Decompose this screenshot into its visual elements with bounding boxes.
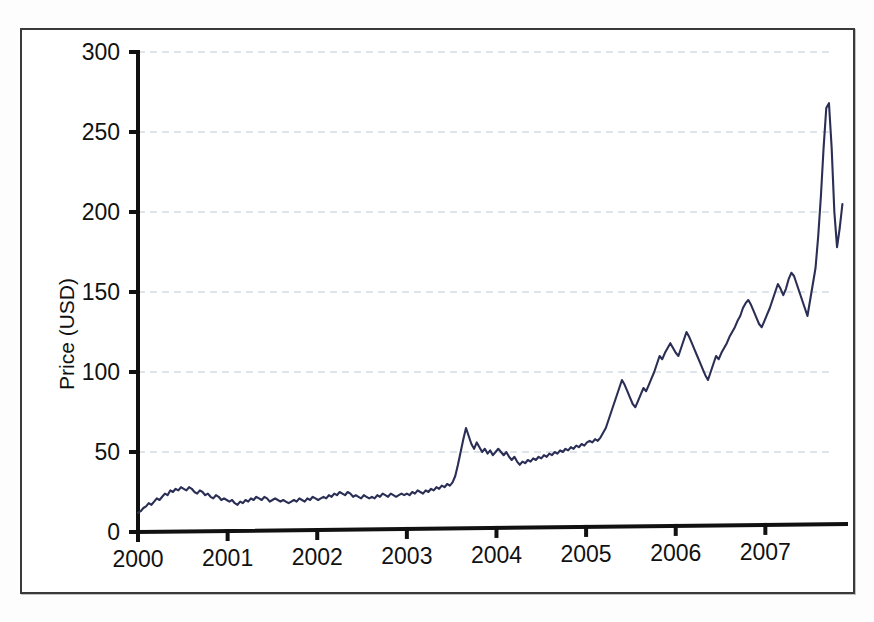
x-tick-label: 2005 xyxy=(561,541,612,567)
price-series-line xyxy=(138,103,842,513)
y-tick-label: 100 xyxy=(82,359,120,385)
y-tick-label: 0 xyxy=(107,519,120,545)
y-axis-ticks: 050100150200250300 xyxy=(82,39,140,545)
y-tick-label: 200 xyxy=(82,199,120,225)
x-tick-label: 2001 xyxy=(202,545,253,571)
y-tick-label: 250 xyxy=(82,119,120,145)
x-tick-label: 2000 xyxy=(112,546,163,572)
y-tick-label: 50 xyxy=(94,439,120,465)
y-tick-label: 300 xyxy=(82,39,120,65)
x-tick-label: 2007 xyxy=(740,539,791,565)
x-tick-label: 2006 xyxy=(650,540,701,566)
price-line-chart: 050100150200250300 200020012002200320042… xyxy=(0,0,874,622)
x-tick-label: 2002 xyxy=(292,544,343,570)
gridlines-group xyxy=(138,52,834,452)
y-tick-label: 150 xyxy=(82,279,120,305)
x-tick-label: 2003 xyxy=(381,543,432,569)
x-axis-line xyxy=(138,524,846,532)
y-axis-label: Price (USD) xyxy=(55,278,78,390)
chart-page: 050100150200250300 200020012002200320042… xyxy=(0,0,874,622)
x-tick-label: 2004 xyxy=(471,542,522,568)
